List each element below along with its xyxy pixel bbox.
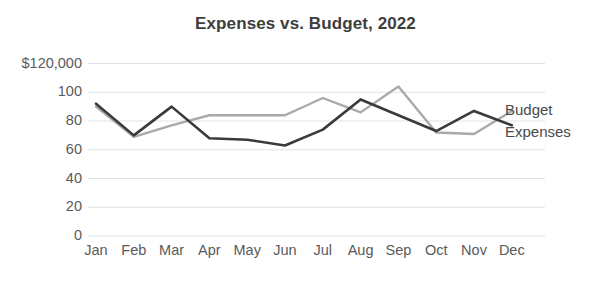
x-axis-tick-apr: Apr xyxy=(189,242,229,258)
x-axis-tick-aug: Aug xyxy=(341,242,381,258)
series-label-budget: Budget xyxy=(505,101,553,118)
y-axis-tick-100: 100 xyxy=(4,83,82,99)
y-axis-tick-80: 80 xyxy=(4,112,82,128)
x-axis-tick-feb: Feb xyxy=(114,242,154,258)
x-axis-tick-jun: Jun xyxy=(265,242,305,258)
series-label-expenses: Expenses xyxy=(505,123,571,140)
x-axis-tick-mar: Mar xyxy=(152,242,192,258)
x-axis-tick-dec: Dec xyxy=(492,242,532,258)
y-axis-tick-120: $120,000 xyxy=(4,55,82,71)
y-axis-tick-0: 0 xyxy=(4,227,82,243)
x-axis-tick-oct: Oct xyxy=(416,242,456,258)
x-axis-tick-jul: Jul xyxy=(303,242,343,258)
chart-container: Expenses vs. Budget, 2022 020406080100$1… xyxy=(0,0,611,281)
line-chart-plot xyxy=(0,0,611,281)
x-axis-tick-may: May xyxy=(227,242,267,258)
x-axis-tick-sep: Sep xyxy=(378,242,418,258)
y-axis-tick-60: 60 xyxy=(4,141,82,157)
y-axis-tick-20: 20 xyxy=(4,198,82,214)
x-axis-tick-nov: Nov xyxy=(454,242,494,258)
y-axis-tick-40: 40 xyxy=(4,170,82,186)
series-line-budget xyxy=(96,87,512,137)
x-axis-tick-jan: Jan xyxy=(76,242,116,258)
gridlines-group xyxy=(88,64,545,237)
series-lines-group xyxy=(96,87,512,146)
